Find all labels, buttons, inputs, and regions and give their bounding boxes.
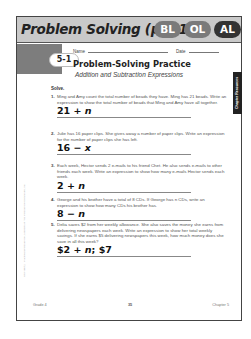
date-label: Date [176,49,186,54]
problem-number: 4. [51,197,55,203]
problem-text: Each week, Hector sends 2 e-mails to his… [57,163,224,179]
problem-text: Ming and Amy count the total number of b… [57,94,226,105]
problem-number: 1. [51,94,55,100]
footer-page-number: 35 [128,303,132,307]
chapter-resources-tab: Chapter Resources [233,72,242,114]
worksheet-title: Problem-Solving Practice [73,59,191,69]
problem-text: George and his brother have a total of 8… [57,197,205,208]
answer-line: 21 + n [57,106,191,118]
name-field[interactable] [88,49,168,53]
footer-chapter: Chapter 5 [212,303,229,307]
problem-item: 4.George and his brother have a total of… [51,197,227,221]
footer-grade: Grade 4 [33,303,47,307]
problem-item: 1.Ming and Amy count the total number of… [51,94,227,118]
badge-below-level: BL [154,21,181,38]
problem-item: 5.Delia saves $2 from her weekly allowan… [51,222,227,257]
worksheet-page: Problem Solving (p. 11) BL OL AL 5-1 Nam… [16,16,242,321]
problem-number: 5. [51,222,55,228]
solve-instruction: Solve. [51,86,64,91]
problem-number: 3. [51,163,55,169]
worksheet-subtitle: Addition and Subtraction Expressions [75,71,183,78]
problem-item: 2.Julie has 16 paper clips. She gives aw… [51,131,227,155]
badge-above-level: AL [214,21,241,38]
copyright-notice: Copyright © Macmillan/McGraw-Hill, a div… [23,177,29,277]
answer-line: $2 + n; $7 [57,245,191,257]
header-band: Problem Solving (p. 11) BL OL AL [17,17,241,43]
answer-line: 16 − x [57,143,191,155]
badge-on-level: OL [184,21,211,38]
date-field[interactable] [189,49,219,53]
problem-text: Delia saves $2 from her weekly allowance… [57,222,224,244]
problem-text: Julie has 16 paper clips. She gives away… [57,131,224,142]
answer-line: 8 − n [57,209,191,221]
problem-number: 2. [51,131,55,137]
problem-item: 3.Each week, Hector sends 2 e-mails to h… [51,163,227,193]
name-date-row: NameDate [73,49,233,54]
answer-line: 2 + n [57,181,191,193]
name-label: Name [73,49,85,54]
